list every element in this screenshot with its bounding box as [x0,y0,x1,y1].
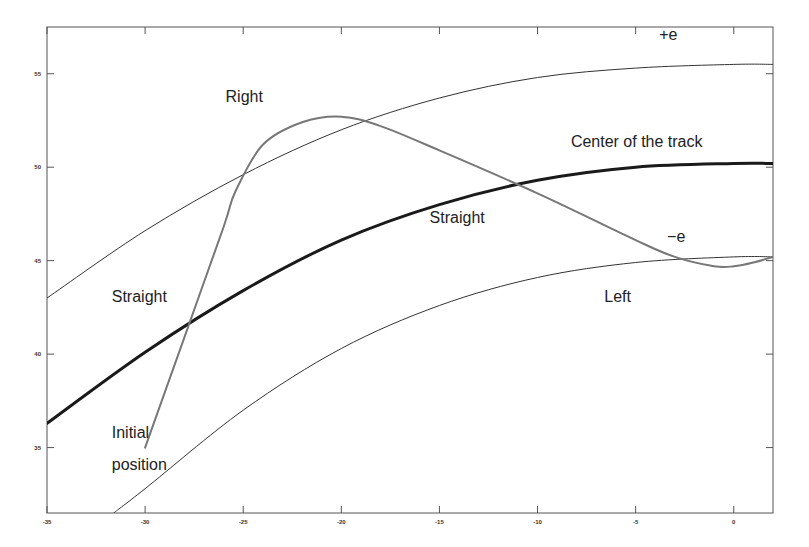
y-tick-label: 35 [34,445,41,451]
annotation-label: Left [604,288,631,305]
annotation-label: Straight [112,288,168,305]
x-tick-label: -20 [337,519,346,525]
x-tick-label: 0 [732,519,736,525]
x-tick-label: -30 [141,519,150,525]
series-line-e [47,64,773,298]
y-tick-label: 55 [34,71,41,77]
track-trajectory-chart: -35-30-25-20-15-10-503540455055 +eCenter… [0,0,809,547]
x-tick-label: -15 [435,519,444,525]
plot-frame [47,27,773,513]
annotation-label: +e [659,26,677,43]
y-tick-label: 45 [34,258,41,264]
x-tick-label: -35 [43,519,52,525]
annotation-label: position [112,456,167,473]
x-tick-label: -10 [533,519,542,525]
annotation-label: Center of the track [571,133,704,150]
annotation-label: −e [667,228,685,245]
annotation-label: Straight [430,209,486,226]
x-tick-label: -5 [633,519,639,525]
y-tick-label: 40 [34,351,41,357]
annotation-label: Initial [112,424,149,441]
series-line-e [114,257,773,514]
axes: -35-30-25-20-15-10-503540455055 [34,27,773,525]
x-tick-label: -25 [239,519,248,525]
annotations: +eCenter of the trackRightStraight−eStra… [112,26,704,473]
y-tick-label: 50 [34,164,41,170]
annotation-label: Right [226,88,264,105]
